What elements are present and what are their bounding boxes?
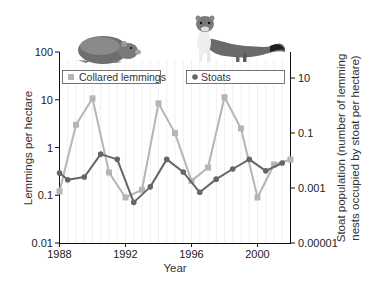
data-point [288, 157, 294, 163]
series-stoats [57, 151, 285, 205]
y-tick-label: 1 [47, 142, 53, 154]
data-point [123, 194, 129, 200]
data-point [57, 188, 63, 194]
data-point [238, 125, 244, 131]
data-point [114, 157, 120, 163]
data-point [106, 169, 112, 175]
data-point [131, 200, 137, 206]
data-point [98, 151, 104, 157]
stoat-illustration [196, 16, 286, 63]
data-point [73, 122, 79, 128]
y-tick-label: 10 [41, 94, 53, 106]
x-axis-title: Year [163, 262, 186, 274]
right-axis-ticks: 100.10.0010.00001 [291, 72, 338, 249]
y-right-tick-label: 0.1 [298, 127, 313, 139]
lemming-illustration [78, 36, 141, 64]
y-axis-title-left: Lemmings per hectare [22, 91, 34, 205]
data-point [81, 174, 87, 180]
x-axis-ticks: 1988199219962000 [47, 243, 269, 260]
data-point [263, 168, 269, 174]
x-tick-label: 2000 [245, 248, 269, 260]
data-point [156, 100, 162, 106]
data-point [255, 194, 261, 200]
data-point [213, 176, 219, 182]
legend-label-stoats: Stoats [201, 71, 231, 83]
data-point [205, 165, 211, 171]
x-tick-label: 1988 [47, 248, 71, 260]
chart: Collared lemmings Stoats 1001010.10.01 1… [0, 0, 375, 285]
y-tick-label: 100 [35, 46, 53, 58]
data-point [90, 95, 96, 101]
data-point [197, 189, 203, 195]
data-point [147, 184, 153, 190]
left-axis-ticks: 1001010.10.01 [32, 46, 60, 249]
data-point [164, 157, 170, 163]
y-right-tick-label: 0.001 [298, 182, 326, 194]
legend-collared-lemmings: Collared lemmings [63, 71, 166, 84]
x-tick-label: 1996 [179, 248, 203, 260]
data-point [230, 166, 236, 172]
data-point [222, 94, 228, 100]
x-tick-label: 1992 [113, 248, 137, 260]
legend-label-lemmings: Collared lemmings [79, 71, 166, 83]
legend-stoats: Stoats [187, 71, 285, 84]
data-point [246, 157, 252, 163]
data-point [172, 130, 178, 136]
y-axis-title-right-line1: Stoat population (number of lemming [335, 54, 347, 243]
y-right-tick-label: 0.00001 [298, 237, 338, 249]
circle-marker-icon [192, 74, 198, 80]
y-tick-label: 0.1 [38, 189, 53, 201]
data-point [279, 160, 285, 166]
y-axis-title-right-line2: nests occupied by stoat per hectare) [349, 55, 361, 241]
data-point [57, 170, 63, 176]
data-point [65, 177, 71, 183]
square-marker-icon [68, 74, 74, 80]
data-point [180, 169, 186, 175]
y-right-tick-label: 10 [298, 72, 310, 84]
